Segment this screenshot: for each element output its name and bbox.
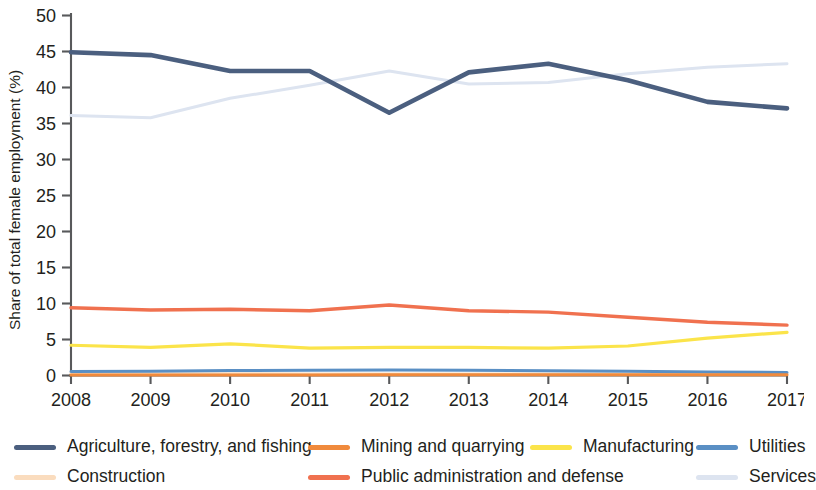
y-axis-title: Share of total female employment (%) <box>6 70 23 330</box>
legend-color-swatch <box>530 445 572 450</box>
legend-item[interactable]: Services <box>696 462 816 490</box>
legend-row-2: ConstructionPublic administration and de… <box>0 462 804 490</box>
legend-row-1: Agriculture, forestry, and fishingMining… <box>0 432 804 462</box>
x-tick-label: 2011 <box>290 390 329 410</box>
legend-color-swatch <box>14 475 56 480</box>
y-tick-label: 30 <box>36 150 56 170</box>
series-line <box>71 305 787 325</box>
y-tick-label: 10 <box>36 294 56 314</box>
legend-label: Public administration and defense <box>361 468 624 486</box>
legend-label: Mining and quarrying <box>361 438 524 456</box>
x-tick-label: 2010 <box>210 390 250 410</box>
x-tick-label: 2014 <box>528 390 568 410</box>
y-tick-label: 25 <box>36 186 56 206</box>
series-line <box>71 52 787 112</box>
legend-item[interactable]: Agriculture, forestry, and fishing <box>14 432 312 462</box>
x-tick-label: 2009 <box>131 390 171 410</box>
legend-color-swatch <box>696 475 738 480</box>
legend-item[interactable]: Public administration and defense <box>308 462 624 490</box>
y-tick-label: 45 <box>36 42 56 62</box>
y-axis-title-text: Share of total female employment (%) <box>6 70 23 330</box>
series-line <box>71 370 787 373</box>
x-tick-label: 2013 <box>449 390 489 410</box>
legend-color-swatch <box>14 445 56 450</box>
x-tick-label: 2017 <box>767 390 804 410</box>
y-tick-label: 0 <box>46 366 56 386</box>
series-line <box>71 332 787 348</box>
legend-color-swatch <box>308 445 350 450</box>
x-axis-ticks: 2008200920102011201220132014201520162017 <box>51 376 804 411</box>
y-tick-label: 50 <box>36 6 56 26</box>
legend-color-swatch <box>308 475 350 480</box>
y-tick-label: 40 <box>36 78 56 98</box>
legend-label: Services <box>749 468 816 486</box>
legend-label: Agriculture, forestry, and fishing <box>67 438 312 456</box>
legend-item[interactable]: Utilities <box>696 432 805 462</box>
legend-item[interactable]: Mining and quarrying <box>308 432 524 462</box>
legend-item[interactable]: Construction <box>14 462 165 490</box>
legend-label: Utilities <box>749 438 805 456</box>
legend-color-swatch <box>696 445 738 450</box>
x-tick-label: 2015 <box>608 390 648 410</box>
y-tick-label: 5 <box>46 330 56 350</box>
x-tick-label: 2016 <box>687 390 727 410</box>
plot-area: Share of total female employment (%) 051… <box>0 0 804 430</box>
y-tick-label: 35 <box>36 114 56 134</box>
line-chart-svg: Share of total female employment (%) 051… <box>0 0 804 430</box>
x-tick-label: 2008 <box>51 390 91 410</box>
series-lines <box>71 52 787 375</box>
legend-label: Manufacturing <box>583 438 694 456</box>
legend-item[interactable]: Manufacturing <box>530 432 694 462</box>
y-axis-ticks: 05101520253035404550 <box>36 6 71 386</box>
chart-legend: Agriculture, forestry, and fishingMining… <box>0 430 804 490</box>
x-tick-label: 2012 <box>369 390 409 410</box>
y-tick-label: 15 <box>36 258 56 278</box>
legend-label: Construction <box>67 468 165 486</box>
y-tick-label: 20 <box>36 222 56 242</box>
